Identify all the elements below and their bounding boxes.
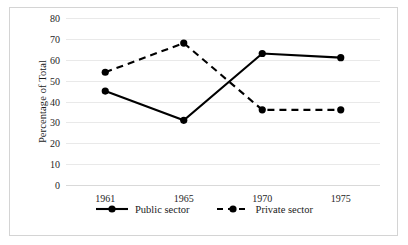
legend-entry-2[interactable]: Private sector: [216, 203, 313, 215]
y-axis-tick-label: 70: [50, 33, 60, 44]
data-point-marker: [102, 69, 109, 76]
chart-legend: Public sectorPrivate sector: [0, 203, 408, 215]
legend-swatch-dashed-line-icon: [216, 203, 250, 215]
data-point-marker: [337, 106, 344, 113]
y-axis-title: Percentage of Total: [32, 18, 52, 185]
y-axis-tick-label: 30: [50, 117, 60, 128]
y-axis-tick-label: 50: [50, 75, 60, 86]
data-point-marker: [259, 106, 266, 113]
y-axis-tick-label: 10: [50, 159, 60, 170]
legend-label: Private sector: [256, 204, 313, 215]
series-line-2: [105, 43, 341, 110]
data-point-marker: [259, 50, 266, 57]
legend-swatch-solid-line-icon: [95, 203, 129, 215]
gridline: [66, 185, 380, 186]
plot-area: Percentage of Total 01020304050607080 19…: [66, 18, 380, 185]
series-layer: [66, 18, 380, 185]
y-axis-tick-label: 60: [50, 54, 60, 65]
y-axis-tick-label: 80: [50, 13, 60, 24]
legend-label: Public sector: [135, 204, 190, 215]
chart-figure: Percentage of Total 01020304050607080 19…: [0, 0, 408, 245]
data-point-marker: [180, 117, 187, 124]
y-axis-tick-label: 20: [50, 138, 60, 149]
y-axis-tick-label: 40: [50, 96, 60, 107]
data-point-marker: [102, 87, 109, 94]
legend-entry-1[interactable]: Public sector: [95, 203, 190, 215]
data-point-marker: [337, 54, 344, 61]
y-axis-tick-label: 0: [55, 180, 60, 191]
data-point-marker: [180, 39, 187, 46]
